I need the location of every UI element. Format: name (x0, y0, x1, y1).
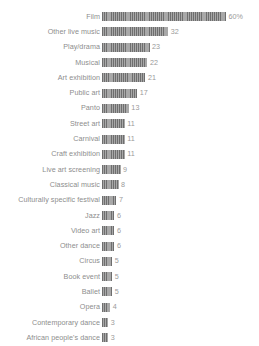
bar-container: 32 (102, 24, 259, 39)
category-label: Circus (0, 257, 102, 265)
category-label: Culturally specific festival (0, 196, 102, 204)
value-label: 21 (145, 74, 156, 82)
bar (102, 73, 145, 82)
bar-container: 11 (102, 116, 259, 131)
bar-container: 13 (102, 101, 259, 116)
bar (102, 165, 121, 174)
chart-row: Street art11 (0, 116, 259, 131)
chart-row: Opera4 (0, 300, 259, 315)
category-label: Art exhibition (0, 74, 102, 82)
bar (102, 196, 116, 205)
bar-container: 5 (102, 269, 259, 284)
bar (102, 27, 168, 36)
chart-rows: Film60%Other live music32Play/drama23Mus… (0, 9, 259, 346)
chart-row: Other dance6 (0, 238, 259, 253)
bar (102, 272, 112, 281)
category-label: Classical music (0, 181, 102, 189)
value-label: 11 (125, 135, 135, 143)
value-label: 3 (108, 334, 115, 342)
category-label: Musical (0, 59, 102, 67)
category-label: Contemporary dance (0, 319, 102, 327)
value-label: 5 (112, 257, 119, 265)
bar (102, 135, 125, 144)
bar (102, 211, 114, 220)
category-label: Other live music (0, 28, 102, 36)
bar-container: 5 (102, 254, 259, 269)
chart-row: Public art17 (0, 85, 259, 100)
chart-row: Art exhibition21 (0, 70, 259, 85)
category-label: Other dance (0, 242, 102, 250)
bar-container: 23 (102, 40, 259, 55)
value-label: 7 (116, 196, 123, 204)
bar-container: 17 (102, 85, 259, 100)
value-label: 11 (125, 120, 135, 128)
category-label: Live art screening (0, 166, 102, 174)
category-label: Ballet (0, 288, 102, 296)
bar (102, 119, 125, 128)
bar-container: 5 (102, 284, 259, 299)
value-label: 5 (112, 288, 119, 296)
chart-row: Culturally specific festival7 (0, 193, 259, 208)
chart-row: Ballet5 (0, 284, 259, 299)
value-label: 32 (168, 28, 179, 36)
bar (102, 257, 112, 266)
bar-container: 11 (102, 131, 259, 146)
value-label: 13 (129, 104, 140, 112)
value-label: 23 (150, 43, 161, 51)
category-label: Carnival (0, 135, 102, 143)
bar-container: 6 (102, 208, 259, 223)
chart-row: Jazz6 (0, 208, 259, 223)
bar-container: 7 (102, 193, 259, 208)
value-label: 6 (114, 242, 121, 250)
bar (102, 180, 119, 189)
bar-container: 21 (102, 70, 259, 85)
chart-row: Play/drama23 (0, 40, 259, 55)
bar (102, 43, 150, 52)
category-label: African people's dance (0, 334, 102, 342)
category-label: Opera (0, 303, 102, 311)
bar (102, 104, 129, 113)
bar-container: 22 (102, 55, 259, 70)
chart-row: Musical22 (0, 55, 259, 70)
chart-row: Contemporary dance3 (0, 315, 259, 330)
category-label: Craft exhibition (0, 150, 102, 158)
value-label: 11 (125, 150, 135, 158)
chart-row: Live art screening9 (0, 162, 259, 177)
value-label: 60% (226, 13, 243, 21)
value-label: 3 (108, 319, 115, 327)
bar-container: 4 (102, 300, 259, 315)
chart-row: Circus5 (0, 254, 259, 269)
bar-container: 60% (102, 9, 259, 24)
bar (102, 12, 226, 21)
value-label: 5 (112, 273, 119, 281)
chart-row: Other live music32 (0, 24, 259, 39)
category-label: Panto (0, 104, 102, 112)
value-label: 6 (114, 227, 121, 235)
bar (102, 242, 114, 251)
chart-row: Film60% (0, 9, 259, 24)
bar-container: 6 (102, 238, 259, 253)
category-label: Play/drama (0, 43, 102, 51)
value-label: 22 (147, 59, 158, 67)
chart-row: African people's dance3 (0, 330, 259, 345)
bar-container: 6 (102, 223, 259, 238)
bar-container: 3 (102, 330, 259, 345)
bar (102, 58, 147, 67)
category-label: Jazz (0, 212, 102, 220)
chart-row: Video art6 (0, 223, 259, 238)
chart-row: Panto13 (0, 101, 259, 116)
category-label: Public art (0, 89, 102, 97)
chart-row: Craft exhibition11 (0, 147, 259, 162)
category-label: Video art (0, 227, 102, 235)
bar-container: 9 (102, 162, 259, 177)
value-label: 6 (114, 212, 121, 220)
bar-container: 11 (102, 147, 259, 162)
bar (102, 226, 114, 235)
chart-row: Book event5 (0, 269, 259, 284)
value-label: 9 (121, 166, 128, 174)
category-label: Film (0, 13, 102, 21)
chart-row: Carnival11 (0, 131, 259, 146)
category-label: Book event (0, 273, 102, 281)
bar (102, 89, 137, 98)
